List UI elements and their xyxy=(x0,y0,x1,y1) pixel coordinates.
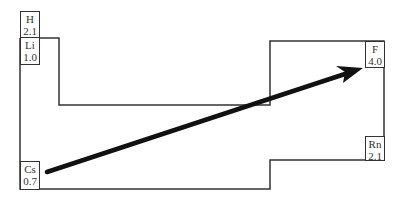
arrow-shaft-icon xyxy=(47,73,348,172)
trend-arrow xyxy=(0,0,406,199)
periodic-table-diagram: H 2.1 Li 1.0 F 4.0 Rn 2.1 Cs 0.7 xyxy=(0,0,406,199)
